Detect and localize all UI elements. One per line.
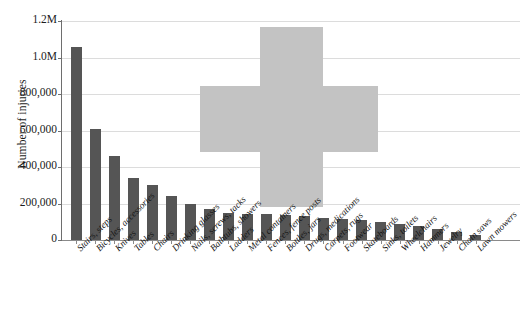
x-axis-tick-mark — [457, 241, 458, 244]
x-axis-tick-mark — [133, 241, 134, 244]
bar — [432, 229, 444, 240]
x-axis-tick-mark — [209, 241, 210, 244]
x-axis-tick-mark — [476, 241, 477, 244]
bar — [470, 235, 482, 240]
bar — [356, 220, 368, 240]
bar-chart: Number of injuries 1.2M1.0M800,000600,00… — [0, 0, 527, 322]
y-axis-title: Number of injuries — [16, 44, 28, 204]
bar — [223, 213, 235, 240]
gridline — [62, 240, 520, 241]
y-axis-tick-label: 1.2M — [0, 13, 57, 25]
x-axis-tick-mark — [171, 241, 172, 244]
bar — [318, 218, 330, 240]
x-axis-tick-mark — [228, 241, 229, 244]
y-axis-tick-label: 400,000 — [0, 159, 57, 171]
y-axis-tick-label: 1.0M — [0, 50, 57, 62]
y-axis-tick-label: 800,000 — [0, 86, 57, 98]
x-axis-tick-mark — [285, 241, 286, 244]
x-axis-tick-mark — [76, 241, 77, 244]
x-axis-tick-mark — [247, 241, 248, 244]
x-axis-tick-mark — [114, 241, 115, 244]
bar — [280, 215, 292, 240]
bar — [128, 178, 140, 240]
bar — [109, 156, 121, 240]
x-axis-tick-mark — [190, 241, 191, 244]
bar — [185, 204, 197, 240]
bar — [413, 226, 425, 240]
bar — [375, 222, 387, 240]
bar — [299, 216, 311, 240]
bar — [394, 224, 406, 240]
y-axis-tick-label: 600,000 — [0, 123, 57, 135]
x-axis-tick-mark — [381, 241, 382, 244]
bar — [261, 214, 273, 240]
bar — [147, 185, 159, 240]
bar — [451, 232, 463, 240]
bar — [337, 219, 349, 240]
x-axis-tick-mark — [95, 241, 96, 244]
x-axis-tick-mark — [343, 241, 344, 244]
bars-layer — [62, 21, 520, 240]
x-axis-tick-mark — [400, 241, 401, 244]
x-axis-tick-mark — [438, 241, 439, 244]
bar — [90, 129, 102, 240]
bar — [166, 196, 178, 240]
y-axis-tick-label: 0 — [0, 232, 57, 244]
y-axis-tick-label: 200,000 — [0, 196, 57, 208]
x-axis-tick-mark — [304, 241, 305, 244]
x-axis-tick-mark — [323, 241, 324, 244]
x-axis-tick-mark — [152, 241, 153, 244]
bar — [204, 209, 216, 240]
x-axis-tick-mark — [266, 241, 267, 244]
x-axis-tick-mark — [362, 241, 363, 244]
x-axis-tick-mark — [419, 241, 420, 244]
bar — [242, 214, 254, 240]
bar — [71, 47, 83, 240]
